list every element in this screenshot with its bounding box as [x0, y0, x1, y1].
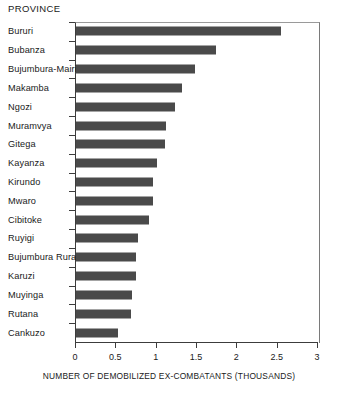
- y-axis-tick: [69, 97, 75, 98]
- x-axis-tick-label: 0: [72, 352, 77, 362]
- bar: [76, 65, 195, 74]
- x-axis-tick: [317, 342, 318, 348]
- y-axis-tick: [69, 323, 75, 324]
- y-axis-tick: [69, 210, 75, 211]
- category-label: Muramvya: [8, 121, 52, 131]
- category-label: Rutana: [8, 309, 38, 319]
- x-axis-title: NUMBER OF DEMOBILIZED EX-COMBATANTS (THO…: [0, 371, 338, 381]
- bar: [76, 328, 118, 337]
- y-axis-tick: [69, 135, 75, 136]
- category-label: Kayanza: [8, 158, 44, 168]
- x-axis-tick-label: 2: [234, 352, 239, 362]
- bar: [76, 272, 136, 281]
- bar: [76, 290, 132, 299]
- x-axis-tick-label: 1: [153, 352, 158, 362]
- category-label: Makamba: [8, 83, 49, 93]
- category-label: Ruyigi: [8, 233, 34, 243]
- bar-row: Bururi: [0, 22, 338, 41]
- y-axis-tick: [69, 41, 75, 42]
- bar: [76, 234, 138, 243]
- y-axis-tick: [69, 60, 75, 61]
- x-axis-tick: [115, 342, 116, 348]
- category-label: Bujumbura Rural: [8, 252, 78, 262]
- category-label: Bururi: [8, 26, 33, 36]
- x-axis-tick: [236, 342, 237, 348]
- bar: [76, 196, 153, 205]
- x-axis-tick-label: 3: [314, 352, 319, 362]
- x-axis-tick: [196, 342, 197, 348]
- y-axis-tick: [69, 286, 75, 287]
- category-label: Ngozi: [8, 102, 32, 112]
- bar-row: Karuzi: [0, 267, 338, 286]
- bar: [76, 27, 281, 36]
- bar: [76, 309, 131, 318]
- x-axis-tick-label: 2.5: [270, 352, 283, 362]
- bar: [76, 177, 153, 186]
- y-axis-tick: [69, 229, 75, 230]
- bar: [76, 253, 136, 262]
- x-axis-tick: [75, 342, 76, 348]
- x-axis-tick-label: 0.5: [109, 352, 122, 362]
- bar: [76, 159, 157, 168]
- bar-row: Makamba: [0, 78, 338, 97]
- category-label: Bubanza: [8, 45, 45, 55]
- category-label: Kirundo: [8, 177, 40, 187]
- y-axis-tick: [69, 116, 75, 117]
- category-label: Karuzi: [8, 271, 35, 281]
- x-axis-tick-label: 1.5: [190, 352, 203, 362]
- y-axis-tick: [69, 304, 75, 305]
- y-axis-tick: [69, 173, 75, 174]
- bar: [76, 121, 166, 130]
- bar: [76, 102, 175, 111]
- category-label: Mwaro: [8, 196, 36, 206]
- bar: [76, 46, 216, 55]
- bar-row: Kayanza: [0, 154, 338, 173]
- bar-row: Mwaro: [0, 191, 338, 210]
- bar-row: Bujumbura Rural: [0, 248, 338, 267]
- category-label: Gitega: [8, 139, 36, 149]
- category-label: Muyinga: [8, 290, 43, 300]
- bar: [76, 83, 182, 92]
- bar: [76, 140, 165, 149]
- bar-row: Kirundo: [0, 173, 338, 192]
- category-label: Cankuzo: [8, 328, 45, 338]
- bar-row: Cibitoke: [0, 210, 338, 229]
- y-axis-tick: [69, 78, 75, 79]
- bar-row: Gitega: [0, 135, 338, 154]
- y-axis-tick: [69, 22, 75, 23]
- province-column-header: PROVINCE: [8, 3, 60, 14]
- bar-chart: PROVINCE BururiBubanzaBujumbura-MairieMa…: [0, 0, 338, 395]
- y-axis-tick: [69, 267, 75, 268]
- x-axis-tick: [156, 342, 157, 348]
- bar-row: Cankuzo: [0, 323, 338, 342]
- bar-row: Bujumbura-Mairie: [0, 60, 338, 79]
- y-axis-tick: [69, 154, 75, 155]
- x-axis-tick: [277, 342, 278, 348]
- bar-rows: BururiBubanzaBujumbura-MairieMakambaNgoz…: [0, 22, 338, 342]
- bar-row: Ngozi: [0, 97, 338, 116]
- bar-row: Bubanza: [0, 41, 338, 60]
- bar-row: Ruyigi: [0, 229, 338, 248]
- y-axis-tick: [69, 191, 75, 192]
- y-axis-tick: [69, 248, 75, 249]
- bar-row: Muyinga: [0, 286, 338, 305]
- category-label: Bujumbura-Mairie: [8, 64, 82, 74]
- bar-row: Muramvya: [0, 116, 338, 135]
- bar: [76, 215, 149, 224]
- bar-row: Rutana: [0, 304, 338, 323]
- category-label: Cibitoke: [8, 215, 42, 225]
